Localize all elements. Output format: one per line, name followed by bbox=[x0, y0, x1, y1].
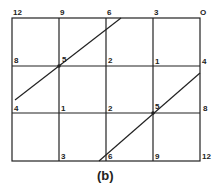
diagonal-line-lower bbox=[99, 73, 200, 161]
label-bottom-1: 6 bbox=[108, 153, 112, 161]
label-bottom-3: 12 bbox=[202, 153, 211, 161]
intersection-dot bbox=[151, 111, 155, 115]
label-row1-1: 5 bbox=[62, 56, 66, 64]
label-bottom-0: 3 bbox=[61, 153, 65, 161]
figure-caption: (b) bbox=[97, 168, 114, 183]
label-row2-3: 5 bbox=[155, 103, 159, 111]
label-row1-4: 4 bbox=[202, 58, 206, 66]
label-bottom-2: 9 bbox=[155, 153, 159, 161]
label-top-0: 12 bbox=[13, 9, 22, 17]
label-row2-1: 1 bbox=[61, 105, 65, 113]
label-top-3: 3 bbox=[154, 9, 158, 17]
diagonal-line-upper bbox=[15, 18, 121, 100]
intersection-dot bbox=[57, 64, 61, 68]
label-row2-0: 4 bbox=[14, 105, 18, 113]
label-row1-2: 2 bbox=[108, 57, 112, 65]
label-top-1: 9 bbox=[60, 9, 64, 17]
label-top-2: 6 bbox=[107, 9, 111, 17]
label-row2-2: 2 bbox=[108, 105, 112, 113]
label-top-4: O bbox=[200, 9, 206, 17]
label-row1-3: 1 bbox=[155, 58, 159, 66]
grid-diagram bbox=[0, 0, 221, 193]
label-row1-0: 8 bbox=[14, 57, 18, 65]
label-row2-4: 8 bbox=[203, 105, 207, 113]
